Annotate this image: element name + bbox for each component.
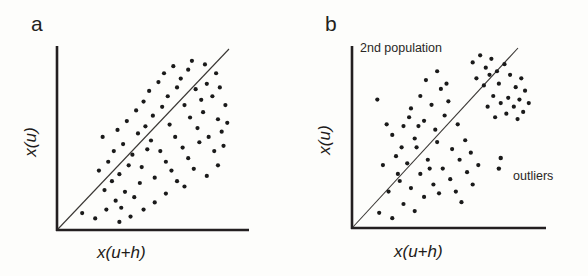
data-point [435,69,439,73]
data-point [106,160,110,164]
axes-b [351,46,546,229]
outlier-points-b [497,156,503,171]
data-point [456,122,460,126]
data-point [132,195,136,199]
data-point [471,60,475,64]
data-point [127,163,131,167]
data-point [194,87,198,91]
data-point [482,83,486,87]
data-point [130,153,134,157]
data-point [428,166,432,170]
data-point [476,163,480,167]
data-point [409,186,413,190]
data-point [512,105,516,109]
data-point [115,128,119,132]
data-point [493,115,497,119]
data-point [101,135,105,139]
data-point [443,113,447,117]
data-point [418,94,422,98]
data-point [220,130,224,134]
data-point [400,145,404,149]
data-point [164,160,168,164]
data-point [114,199,118,203]
data-point [424,78,428,82]
data-point [454,190,458,194]
data-point [166,94,170,98]
data-point [125,119,129,123]
data-point [416,124,420,128]
data-point [147,89,151,93]
data-point [169,168,173,172]
data-point [422,119,426,123]
data-point [487,73,491,77]
data-point [431,182,435,186]
data-point [385,122,389,126]
axes-a [56,46,249,231]
data-point [409,106,413,110]
data-point [377,211,381,215]
data-point [143,124,147,128]
data-point [504,112,508,116]
data-points-a [80,59,229,224]
data-point [390,216,394,220]
data-point [413,209,417,213]
x-axis-label-b: x(u+h) [394,242,443,262]
data-point [80,211,84,215]
data-point [450,147,454,151]
data-point [173,135,177,139]
data-point [117,220,121,224]
data-point [502,62,506,66]
data-point [138,181,142,185]
data-point [145,147,149,151]
data-point [491,94,495,98]
panel-b: b x(u) x(u+h) 2nd population outliers [294,0,588,276]
data-point [437,191,441,195]
reference-line-b [353,48,518,227]
data-points-b [375,69,480,220]
data-point [207,135,211,139]
data-point [463,138,467,142]
data-point [444,82,448,86]
data-point [141,207,145,211]
data-point [134,108,138,112]
data-point [179,76,183,80]
y-axis-label-b: x(u) [315,112,335,168]
data-point [153,176,157,180]
data-point [413,136,417,140]
annotation-second-population: 2nd population [360,41,442,55]
data-point [484,66,488,70]
data-point [486,105,490,109]
data-point [140,165,144,169]
data-point [515,117,519,121]
data-point [112,149,116,153]
data-point [201,110,205,114]
data-point [433,128,437,132]
data-point [422,195,426,199]
data-point [405,161,409,165]
data-point [203,62,207,66]
data-point [168,122,172,126]
data-point [175,85,179,89]
data-point [446,99,450,103]
data-point [519,76,523,80]
data-point [192,167,196,171]
data-point [182,103,186,107]
reference-line-a [58,49,229,229]
scatter-plot-a [0,0,294,276]
data-point [517,97,521,101]
data-point [156,80,160,84]
data-point [97,168,101,172]
data-point [210,94,214,98]
data-point [93,216,97,220]
data-point [175,179,179,183]
data-point [151,114,155,118]
data-point [182,184,186,188]
data-point [117,172,121,176]
data-point [429,103,433,107]
data-point [225,121,229,125]
data-point [457,158,461,162]
data-point [398,179,402,183]
data-point [497,166,501,170]
data-point [469,151,473,155]
data-point [221,144,225,148]
